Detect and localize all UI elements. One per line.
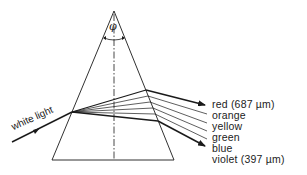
prism	[52, 11, 174, 160]
apex-angle-symbol: φ	[109, 20, 117, 33]
internal-rays	[72, 90, 158, 121]
exit-rays	[146, 90, 207, 146]
label-violet: violet (397 µm)	[212, 154, 285, 165]
prism-diagram	[0, 0, 307, 175]
